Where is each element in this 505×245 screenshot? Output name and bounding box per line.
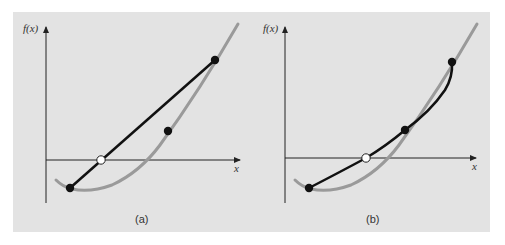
panel-b: f(x) x (b) (263, 22, 477, 225)
point-lower (305, 184, 313, 192)
root-estimate-point (97, 156, 105, 164)
x-axis-label: x (471, 160, 477, 172)
point-upper (448, 58, 456, 66)
point-upper (211, 56, 219, 64)
linear-approximation (70, 60, 215, 188)
point-lower (66, 184, 74, 192)
panel-label: (a) (135, 213, 148, 225)
figure-svg: f(x) x (a) f(x) x (b) (0, 0, 505, 245)
function-curve (56, 24, 238, 190)
function-curve (295, 24, 477, 190)
panel-label: (b) (366, 213, 379, 225)
y-axis-label: f(x) (263, 22, 279, 35)
panel-a: f(x) x (a) (23, 22, 240, 225)
root-estimate-point (362, 154, 370, 162)
point-middle (164, 127, 172, 135)
quadratic-approximation (309, 62, 452, 188)
point-middle (401, 126, 409, 134)
y-axis-label: f(x) (23, 22, 39, 35)
x-axis-label: x (233, 162, 239, 174)
